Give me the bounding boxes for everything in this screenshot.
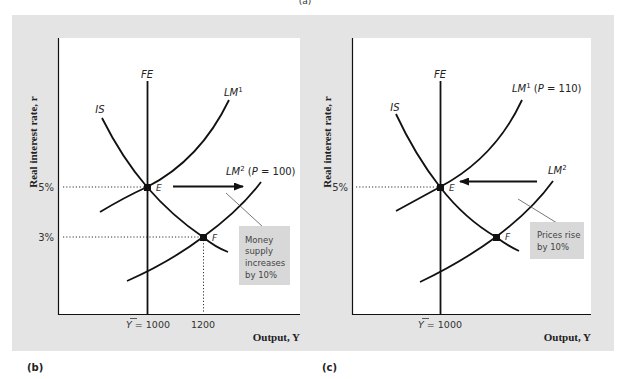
- is-label-b: IS: [95, 104, 105, 115]
- plot-area-c: [352, 38, 591, 314]
- caption-c: (c): [322, 362, 337, 373]
- callout-line-c-2: by 10%: [537, 242, 569, 252]
- top-label: (a): [299, 0, 312, 6]
- x-axis-label-b: Output, Y: [253, 331, 300, 343]
- x-tick-ybar-b: Y = 1000: [126, 319, 170, 330]
- callout-box-c: [530, 222, 584, 259]
- x-tick-1200-b: 1200: [191, 319, 215, 330]
- callout-line-c-1: Prices rise: [537, 230, 580, 240]
- x-axis-label-c: Output, Y: [544, 331, 591, 343]
- point-f-label-b: F: [212, 233, 218, 243]
- point-e-label-b: E: [156, 183, 162, 193]
- point-e-label-c: E: [449, 183, 455, 193]
- caption-b: (b): [27, 362, 43, 373]
- point-e-b: [144, 184, 151, 191]
- fe-label-b: FE: [141, 69, 154, 80]
- point-e-c: [437, 184, 444, 191]
- y-tick-5pct-c: 5%: [332, 182, 348, 193]
- y-tick-3pct-b: 3%: [38, 232, 54, 243]
- callout-line-b-1: Money: [245, 235, 273, 245]
- fe-label-c: FE: [434, 69, 447, 80]
- lm2-label-b: LM2 (P = 100): [226, 165, 296, 177]
- lm1-label-c: LM1 (P = 110): [512, 82, 582, 94]
- callout-line-b-4: by 10%: [245, 270, 277, 280]
- figure: (a) Real interest rate, r 5% 3% FE IS LM…: [0, 0, 625, 379]
- is-label-c: IS: [390, 102, 400, 113]
- point-f-c: [493, 234, 500, 241]
- x-tick-ybar-c: Y = 1000: [418, 319, 462, 330]
- point-f-label-c: F: [505, 232, 511, 242]
- point-f-b: [200, 234, 207, 241]
- y-tick-5pct-b: 5%: [38, 182, 54, 193]
- callout-line-b-2: supply: [245, 246, 273, 256]
- callout-line-b-3: increases: [245, 258, 286, 268]
- y-axis-label-b: Real interest rate, r: [27, 96, 39, 188]
- y-axis-label-c: Real interest rate, r: [321, 96, 333, 188]
